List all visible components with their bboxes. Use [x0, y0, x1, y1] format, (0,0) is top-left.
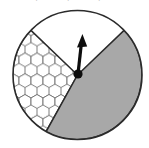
pivot-dot — [73, 69, 82, 78]
pie-chart-svg — [0, 0, 149, 148]
figure-root: r f f — [0, 0, 149, 148]
